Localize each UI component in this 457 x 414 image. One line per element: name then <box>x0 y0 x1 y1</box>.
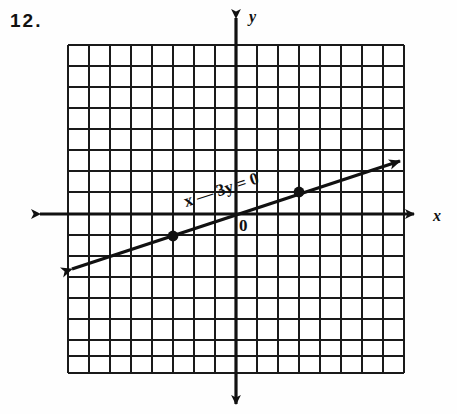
plotted-point <box>294 187 305 198</box>
coordinate-plane-figure: 0 x y x — 3y = 0 <box>0 0 457 414</box>
y-axis-label: y <box>247 8 257 26</box>
plotted-point <box>168 231 179 242</box>
x-axis-label: x <box>432 207 441 224</box>
figure-page: 12. <box>0 0 457 414</box>
origin-label: 0 <box>239 216 248 235</box>
